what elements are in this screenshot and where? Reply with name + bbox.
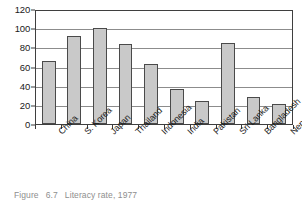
x-axis-category-labels: ChinaS. KoreaJapanThailandIndonesiaIndia… bbox=[35, 130, 293, 182]
y-axis-label: 100 bbox=[15, 24, 30, 34]
y-axis-label: 80 bbox=[20, 44, 30, 54]
bar-slot bbox=[62, 11, 88, 124]
bar bbox=[42, 61, 56, 124]
figure-caption: Figure6.7Literacy rate, 1977 bbox=[14, 190, 137, 200]
y-axis-label: 60 bbox=[20, 63, 30, 73]
x-axis-label: China bbox=[57, 130, 63, 136]
y-axis-label: 0 bbox=[25, 120, 30, 130]
x-axis-label: Pakistan bbox=[212, 130, 218, 136]
x-axis-label: Bangladesh bbox=[263, 130, 269, 136]
y-axis-label: 20 bbox=[20, 101, 30, 111]
bar-slot bbox=[190, 11, 216, 124]
y-axis-label: 120 bbox=[15, 5, 30, 15]
x-axis-label: Thailand bbox=[134, 130, 140, 136]
bar-slot bbox=[113, 11, 139, 124]
y-axis-label: 40 bbox=[20, 82, 30, 92]
x-axis-label: India bbox=[186, 130, 192, 136]
caption-number: 6.7 bbox=[46, 190, 58, 200]
bar bbox=[67, 36, 81, 124]
x-axis-label: Indonesia bbox=[160, 130, 166, 136]
x-axis-label: S. Korea bbox=[83, 130, 89, 136]
x-axis-tick bbox=[35, 125, 36, 129]
bar-series bbox=[36, 11, 292, 124]
x-axis-label: Nepal bbox=[289, 130, 295, 136]
caption-label: Figure bbox=[14, 190, 39, 200]
figure: 020406080100120 ChinaS. KoreaJapanThaila… bbox=[0, 0, 302, 204]
y-axis-tick-labels: 020406080100120 bbox=[4, 2, 30, 133]
x-axis-label: Japan bbox=[109, 130, 115, 136]
bar-chart: 020406080100120 ChinaS. KoreaJapanThaila… bbox=[0, 2, 302, 182]
caption-text: Literacy rate, 1977 bbox=[65, 190, 137, 200]
bar-slot bbox=[36, 11, 62, 124]
plot-area bbox=[35, 10, 293, 125]
x-axis-label: Sri Lanka bbox=[238, 130, 244, 136]
